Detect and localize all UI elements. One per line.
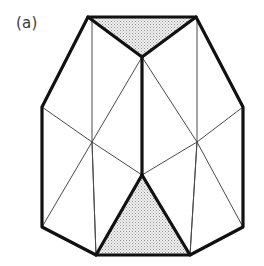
- polyhedron-diagram: [0, 0, 264, 266]
- figure-canvas: (a): [0, 0, 264, 266]
- panel-label: (a): [16, 14, 38, 32]
